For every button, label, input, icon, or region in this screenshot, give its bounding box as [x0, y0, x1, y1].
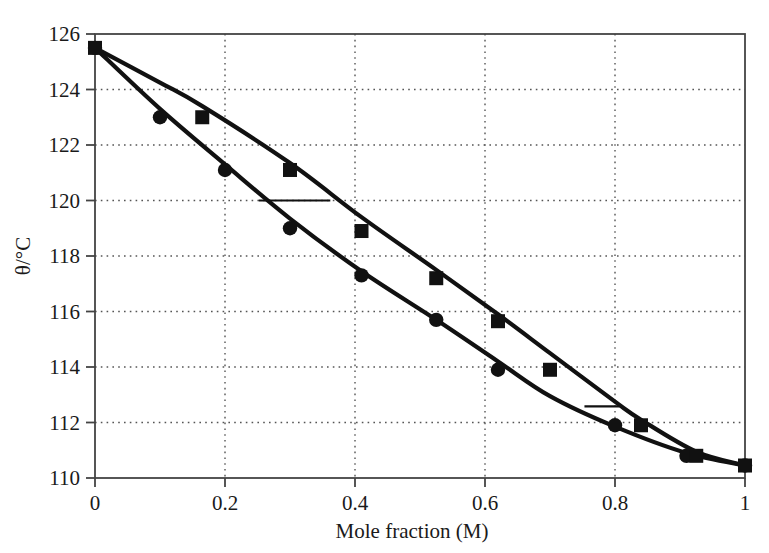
y-tick-label: 122	[49, 133, 81, 157]
chart-figure: 11011211411611812012212412600.20.40.60.8…	[0, 0, 769, 553]
data-point-circle	[354, 268, 368, 282]
x-tick-label: 0	[90, 491, 101, 515]
y-tick-label: 110	[49, 466, 80, 490]
data-point-square	[689, 449, 703, 463]
data-point-circle	[429, 313, 443, 327]
data-point-square	[634, 418, 648, 432]
y-tick-label: 120	[49, 189, 81, 213]
tie-lines	[259, 201, 620, 407]
y-tick-label: 112	[49, 411, 80, 435]
data-point-square	[195, 110, 209, 124]
y-tick-label: 126	[49, 22, 81, 46]
x-tick-label: 0.4	[342, 491, 369, 515]
axis-titles: Mole fraction (M) θ/°C	[11, 237, 488, 543]
data-point-circle	[283, 221, 297, 235]
y-axis-title: θ/°C	[11, 237, 35, 275]
x-tick-label: 0.2	[212, 491, 238, 515]
data-point-square	[355, 224, 369, 238]
tick-labels: 11011211411611812012212412600.20.40.60.8…	[49, 22, 751, 515]
data-point-circle	[608, 418, 622, 432]
x-axis-title: Mole fraction (M)	[336, 519, 489, 543]
data-point-square	[429, 271, 443, 285]
phase-diagram-plot: 11011211411611812012212412600.20.40.60.8…	[0, 0, 769, 553]
data-point-circle	[218, 163, 232, 177]
y-tick-label: 118	[49, 244, 80, 268]
x-tick-label: 0.8	[602, 491, 628, 515]
y-tick-label: 114	[49, 355, 80, 379]
y-tick-label: 116	[49, 300, 80, 324]
data-point-square	[283, 163, 297, 177]
x-tick-label: 1	[740, 491, 751, 515]
data-point-circle	[153, 110, 167, 124]
data-point-square	[738, 459, 752, 473]
data-point-square	[491, 314, 505, 328]
data-point-square	[88, 41, 102, 55]
x-tick-label: 0.6	[472, 491, 498, 515]
data-point-circle	[491, 363, 505, 377]
y-tick-label: 124	[49, 78, 81, 102]
data-point-square	[543, 363, 557, 377]
